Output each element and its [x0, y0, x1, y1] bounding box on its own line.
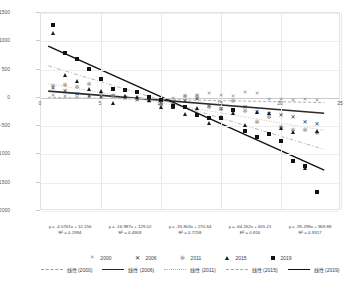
trendline-2011: [48, 84, 324, 131]
y-axis-tick: [36, 125, 40, 126]
x-axis-tick-label: 25: [330, 100, 350, 106]
x-axis-tick-label: 10: [150, 100, 170, 106]
gridline-horizontal: [41, 70, 339, 71]
legend-line-icon: [41, 269, 63, 270]
legend-trendlines: 线性 (2000)线性 (2006)线性 (2011)线性 (2015)线性 (…: [40, 264, 340, 275]
legend-trendline-item[interactable]: 线性 (2006): [102, 267, 154, 273]
legend-label: 2011: [191, 255, 202, 261]
r-squared-text: R² = 0.4903: [100, 230, 160, 236]
legend-item-2006[interactable]: ✕2006: [133, 254, 156, 262]
regression-equation-2019: y = -95.298x + 969.88R² = 0.9317: [280, 224, 340, 244]
legend-item-2000[interactable]: ✕2000: [88, 254, 111, 262]
chart-container: ✕✕✕✕✕✕✕✕✕✕✕✕✕✕✕✕✕✕✕✕✕✕✕✕✕✕✕✕✕✕✕✕✕✕✕✕✕✕✕✕…: [0, 0, 354, 282]
y-axis-tick: [36, 40, 40, 41]
axis-zero-line: [41, 98, 339, 99]
y-axis-tick-label: 1500: [0, 9, 10, 15]
gridline-vertical: [101, 13, 102, 209]
equation-text: y = -95.298x + 969.88: [289, 224, 332, 229]
equation-text: y = -16.987x + 129.02: [109, 224, 152, 229]
legend-label: 线性 (2006): [128, 267, 154, 273]
gridline-horizontal: [41, 13, 339, 14]
y-axis-tick-label: -2000: [0, 207, 10, 213]
regression-equation-2006: y = -16.987x + 129.02R² = 0.4903: [100, 224, 160, 244]
legend-label: 2000: [100, 255, 111, 261]
regression-equation-2015: y = -64.262x + 605.21R² = 0.816: [220, 224, 280, 244]
y-axis-tick: [36, 153, 40, 154]
legend-line-icon: [102, 269, 124, 270]
y-axis-tick: [36, 69, 40, 70]
legend-label: 线性 (2015): [252, 267, 278, 273]
gridline-vertical: [161, 13, 162, 209]
legend-markers: ✕2000✕2006✻201120152019: [40, 252, 340, 263]
legend-trendline-item[interactable]: 线性 (2000): [41, 267, 93, 273]
x-axis-tick-label: 0: [30, 100, 50, 106]
r-squared-text: R² = 0.7259: [160, 230, 220, 236]
legend-item-2015[interactable]: 2015: [223, 254, 246, 262]
legend-line-icon: [288, 269, 310, 270]
gridline-horizontal: [41, 126, 339, 127]
r-squared-text: R² = 0.1994: [40, 230, 100, 236]
y-axis-tick: [36, 97, 40, 98]
legend-label: 线性 (2019): [314, 267, 340, 273]
gridline-horizontal: [41, 211, 339, 212]
y-axis-tick-label: -500: [0, 122, 10, 128]
regression-equation-2000: y = -4.0761x + 12.156R² = 0.1994: [40, 224, 100, 244]
gridline-vertical: [281, 13, 282, 209]
equation-text: y = -64.262x + 605.21: [229, 224, 272, 229]
plot-area: ✕✕✕✕✕✕✕✕✕✕✕✕✕✕✕✕✕✕✕✕✕✕✕✕✕✕✕✕✕✕✕✕✕✕✕✕✕✕✕✕…: [40, 12, 340, 210]
y-axis-tick-label: -1500: [0, 179, 10, 185]
legend-line-icon: [164, 269, 186, 270]
trendline-layer: [41, 13, 341, 211]
y-axis-tick: [36, 182, 40, 183]
gridline-horizontal: [41, 41, 339, 42]
legend-line-icon: [226, 269, 248, 270]
legend-label: 2019: [281, 255, 292, 261]
legend-item-2011[interactable]: ✻2011: [179, 254, 202, 262]
legend-marker-icon: [223, 254, 231, 262]
legend-trendline-item[interactable]: 线性 (2015): [226, 267, 278, 273]
equation-text: y = -35.803x + 270.64: [169, 224, 212, 229]
legend-label: 线性 (2011): [190, 267, 215, 273]
y-axis-tick-label: 500: [0, 66, 10, 72]
y-axis-tick: [36, 12, 40, 13]
y-axis-tick-label: -1000: [0, 150, 10, 156]
y-axis-tick-label: 1000: [0, 37, 10, 43]
y-axis-tick: [36, 210, 40, 211]
gridline-horizontal: [41, 183, 339, 184]
x-axis-tick-label: 15: [210, 100, 230, 106]
legend-item-2019[interactable]: 2019: [269, 254, 292, 262]
legend-marker-icon: [269, 254, 277, 262]
equation-row: y = -4.0761x + 12.156R² = 0.1994y = -16.…: [40, 224, 340, 244]
legend-trendline-item[interactable]: 线性 (2011): [164, 267, 215, 273]
legend-label: 线性 (2000): [67, 267, 93, 273]
regression-equation-2011: y = -35.803x + 270.64R² = 0.7259: [160, 224, 220, 244]
x-axis-tick-label: 20: [270, 100, 290, 106]
legend-marker-icon: ✻: [179, 254, 187, 262]
equation-text: y = -4.0761x + 12.156: [49, 224, 92, 229]
r-squared-text: R² = 0.9317: [280, 230, 340, 236]
gridline-vertical: [341, 13, 342, 209]
r-squared-text: R² = 0.816: [220, 230, 280, 236]
legend-label: 2015: [235, 255, 246, 261]
legend-trendline-item[interactable]: 线性 (2019): [288, 267, 340, 273]
legend-marker-icon: ✕: [133, 254, 141, 262]
x-axis-tick-label: 5: [90, 100, 110, 106]
y-axis-tick-label: 0: [0, 94, 10, 100]
gridline-horizontal: [41, 154, 339, 155]
gridline-vertical: [221, 13, 222, 209]
legend-label: 2006: [145, 255, 156, 261]
legend-marker-icon: ✕: [88, 254, 96, 262]
trendline-2019: [48, 46, 324, 170]
